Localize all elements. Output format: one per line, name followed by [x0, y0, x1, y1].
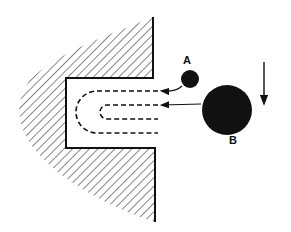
label-a: A: [183, 54, 191, 66]
arrow-from-a: [162, 86, 182, 91]
hatched-wall: [0, 0, 160, 232]
particle-a: A: [181, 54, 199, 88]
outer-flow-path: [76, 91, 158, 133]
arrow-from-b: [162, 104, 201, 105]
label-b: B: [229, 134, 237, 146]
flow-paths: [76, 91, 158, 133]
particle-b: B: [202, 85, 252, 146]
inner-flow-path: [100, 105, 158, 119]
diagram-canvas: A B: [0, 0, 291, 232]
